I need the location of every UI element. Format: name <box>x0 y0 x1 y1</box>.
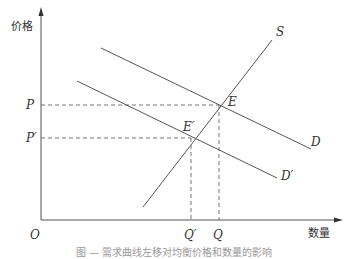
y-axis-label: 价格 <box>11 21 33 33</box>
price-label: P <box>26 99 34 111</box>
figure-caption: 图 — 需求曲线左移对均衡价格和数量的影响 <box>0 247 348 259</box>
quantity-label: Q <box>213 229 223 241</box>
equilibrium-shifted-point-label: E′ <box>183 121 194 133</box>
axes <box>41 14 336 220</box>
x-axis-arrow-icon <box>334 218 343 223</box>
demand-curve-label: D <box>311 136 321 148</box>
supply-curve <box>143 40 272 207</box>
equilibrium-point-label: E <box>228 96 237 108</box>
x-axis-label: 数量 <box>308 228 330 240</box>
origin-label: O <box>30 229 40 241</box>
demand-curve <box>101 48 311 149</box>
demand-shifted-curve-label: D′ <box>281 170 293 182</box>
y-axis-arrow-icon <box>39 7 44 16</box>
price-shifted-label: P′ <box>26 132 37 144</box>
supply-curve-label: S <box>276 26 284 38</box>
quantity-shifted-label: Q′ <box>184 229 197 241</box>
